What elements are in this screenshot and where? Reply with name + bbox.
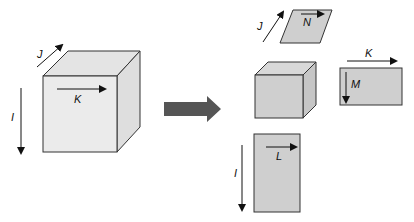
source-k-label: K bbox=[74, 93, 82, 105]
small-cube-front-face bbox=[255, 75, 303, 118]
array-decomposition-diagram: J I K J N K M I L bbox=[0, 0, 414, 222]
slice-km-k-label: K bbox=[365, 47, 373, 59]
slice-km-m-label: M bbox=[351, 78, 361, 90]
slice-jn-j-label: J bbox=[256, 20, 263, 32]
slice-il-l-label: L bbox=[276, 150, 282, 162]
slice-km bbox=[340, 68, 402, 105]
source-cube-front-face bbox=[43, 76, 117, 152]
slice-jn-n-label: N bbox=[303, 16, 311, 28]
source-cube bbox=[43, 51, 140, 152]
source-j-label: J bbox=[36, 48, 43, 60]
slice-jn-j-axis-arrow bbox=[263, 12, 283, 42]
transform-arrow-icon bbox=[164, 96, 221, 122]
result-small-cube bbox=[255, 62, 316, 118]
source-i-label: I bbox=[11, 111, 14, 123]
slice-il-i-label: I bbox=[234, 167, 237, 179]
slice-il bbox=[254, 134, 300, 212]
